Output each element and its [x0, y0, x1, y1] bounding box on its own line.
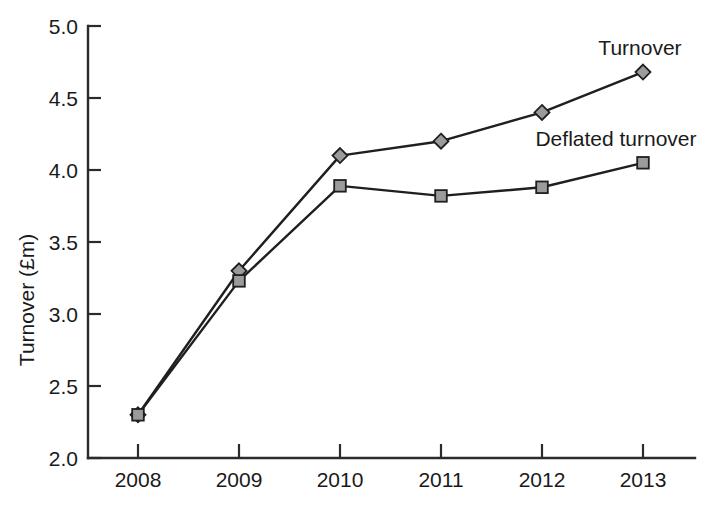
axes-group	[88, 26, 695, 458]
y-tick-label-3-5: 3.5	[49, 231, 78, 254]
y-tick-label-3-0: 3.0	[49, 303, 78, 326]
series-lines	[138, 72, 643, 415]
data-point-marker-square	[637, 157, 649, 169]
x-tick-labels: 2008 2009 2010 2011 2012 2013	[115, 468, 667, 491]
y-tick-label-4-5: 4.5	[49, 87, 78, 110]
y-tick-label-5-0: 5.0	[49, 15, 78, 38]
data-point-marker-square	[536, 181, 548, 193]
x-tick-marks	[138, 444, 643, 458]
annotation-deflated-turnover: Deflated turnover	[535, 127, 696, 150]
y-tick-label-4-0: 4.0	[49, 159, 78, 182]
data-point-marker-diamond	[535, 105, 550, 120]
series-line-deflated-turnover	[138, 163, 643, 415]
x-tick-label-2009: 2009	[216, 468, 263, 491]
series-line-turnover	[138, 72, 643, 415]
chart-canvas: 5.0 4.5 4.0 3.5 3.0 2.5 2.0 2008 2009 20…	[0, 0, 725, 513]
data-point-marker-diamond	[434, 134, 449, 149]
y-tick-label-2-0: 2.0	[49, 447, 78, 470]
y-tick-marks	[88, 26, 101, 458]
data-point-marker-square	[132, 409, 144, 421]
y-tick-label-2-5: 2.5	[49, 375, 78, 398]
series-markers-turnover	[131, 65, 651, 423]
annotation-turnover: Turnover	[598, 36, 681, 59]
x-tick-label-2010: 2010	[317, 468, 364, 491]
data-point-marker-diamond	[636, 65, 651, 80]
line-chart: 5.0 4.5 4.0 3.5 3.0 2.5 2.0 2008 2009 20…	[0, 0, 725, 513]
series-markers-deflated-turnover	[132, 157, 649, 421]
data-point-marker-square	[435, 190, 447, 202]
data-point-marker-square	[233, 275, 245, 287]
x-tick-label-2012: 2012	[519, 468, 566, 491]
x-tick-label-2008: 2008	[115, 468, 162, 491]
y-axis-title: Turnover (£m)	[15, 234, 38, 366]
x-tick-label-2011: 2011	[418, 468, 463, 491]
y-tick-labels: 5.0 4.5 4.0 3.5 3.0 2.5 2.0	[49, 15, 78, 470]
x-tick-label-2013: 2013	[620, 468, 667, 491]
data-point-marker-square	[334, 180, 346, 192]
